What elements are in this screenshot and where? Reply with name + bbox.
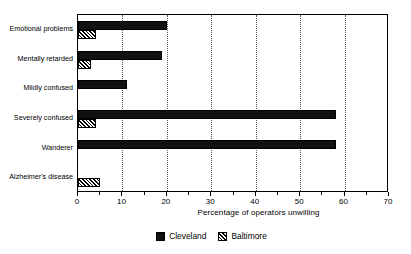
bar-baltimore	[78, 30, 96, 39]
x-tick-label-30: 30	[195, 197, 225, 207]
x-tick-label-20: 20	[151, 197, 181, 207]
chart-legend: ClevelandBaltimore	[0, 231, 411, 243]
x-minor-tick-45	[277, 192, 278, 195]
x-tick-0	[77, 192, 78, 196]
category-label-2: Mildly confused	[0, 84, 73, 92]
x-minor-tick-55	[321, 192, 322, 195]
bar-cleveland	[78, 110, 336, 119]
x-tick-label-50: 50	[284, 197, 314, 207]
category-label-0: Emotional problems	[0, 25, 73, 33]
legend-swatch-cleveland	[156, 232, 165, 241]
category-label-text: Mentally retarded	[17, 54, 73, 63]
gridline-40	[256, 15, 257, 191]
bar-baltimore	[78, 60, 91, 69]
category-label-text: Emotional problems	[9, 24, 73, 33]
x-axis-title-text: Percentage of operators unwilling	[197, 208, 319, 217]
gridline-10	[122, 15, 123, 191]
x-tick-50	[299, 192, 300, 196]
category-label-3: Severely confused	[0, 114, 73, 122]
bar-cleveland	[78, 21, 167, 30]
gridline-30	[211, 15, 212, 191]
bar-baltimore	[78, 119, 96, 128]
category-label-text: Mildly confused	[23, 83, 73, 92]
category-label-text: Alzheimer's disease	[9, 172, 73, 181]
bar-cleveland	[78, 51, 162, 60]
legend-swatch-baltimore	[218, 232, 227, 241]
legend-item-baltimore: Baltimore	[218, 231, 266, 241]
x-tick-20	[166, 192, 167, 196]
gridline-60	[345, 15, 346, 191]
x-tick-label-0: 0	[62, 197, 92, 207]
x-tick-label-10: 10	[106, 197, 136, 207]
x-tick-10	[121, 192, 122, 196]
legend-label-baltimore: Baltimore	[231, 231, 266, 241]
category-label-1: Mentally retarded	[0, 55, 73, 63]
x-tick-70	[388, 192, 389, 196]
x-tick-label-60: 60	[329, 197, 359, 207]
x-minor-tick-15	[144, 192, 145, 195]
category-label-4: Wanderer	[0, 144, 73, 152]
legend-items: ClevelandBaltimore	[156, 231, 267, 241]
x-tick-label-40: 40	[240, 197, 270, 207]
legend-item-cleveland: Cleveland	[156, 231, 206, 241]
bar-cleveland	[78, 80, 127, 89]
bar-baltimore	[78, 178, 100, 187]
x-axis-title: Percentage of operators unwilling	[0, 208, 411, 217]
category-label-text: Severely confused	[14, 113, 73, 122]
x-tick-40	[255, 192, 256, 196]
x-tick-30	[210, 192, 211, 196]
legend-label-cleveland: Cleveland	[169, 231, 206, 241]
x-minor-tick-65	[366, 192, 367, 195]
x-tick-label-70: 70	[373, 197, 403, 207]
x-minor-tick-25	[188, 192, 189, 195]
category-label-text: Wanderer	[42, 143, 73, 152]
category-label-5: Alzheimer's disease	[0, 173, 73, 181]
gridline-50	[300, 15, 301, 191]
plot-area	[77, 14, 388, 192]
x-minor-tick-35	[233, 192, 234, 195]
x-minor-tick-5	[99, 192, 100, 195]
gridline-20	[167, 15, 168, 191]
bar-cleveland	[78, 140, 336, 149]
x-tick-60	[344, 192, 345, 196]
bar-chart: Emotional problemsMentally retardedMildl…	[0, 0, 411, 254]
